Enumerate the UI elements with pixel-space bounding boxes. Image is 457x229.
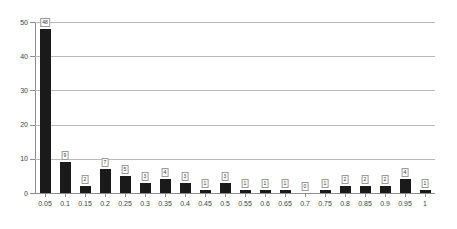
y-tick-label: 20 bbox=[2, 121, 28, 128]
x-tick-mark bbox=[345, 193, 346, 197]
bar-value-label: 9 bbox=[62, 151, 69, 160]
bar-slot: 1 bbox=[275, 22, 295, 193]
bar-value-label: 1 bbox=[262, 179, 269, 188]
bar[interactable]: 2 bbox=[340, 186, 351, 193]
x-tick-slot: 0.45 bbox=[195, 193, 215, 223]
x-tick-label: 0.85 bbox=[358, 200, 372, 208]
bar-value-label: 48 bbox=[40, 18, 50, 27]
x-tick-label: 0.2 bbox=[100, 200, 110, 208]
x-tick-mark bbox=[285, 193, 286, 197]
bar-value-label: 7 bbox=[102, 158, 109, 167]
plot-area: 489275343131110122241 bbox=[35, 22, 435, 193]
x-tick-label: 0.9 bbox=[380, 200, 390, 208]
bar[interactable]: 2 bbox=[380, 186, 391, 193]
bar-slot: 3 bbox=[175, 22, 195, 193]
bar-slot: 2 bbox=[375, 22, 395, 193]
x-tick-mark bbox=[185, 193, 186, 197]
x-tick-slot: 0.6 bbox=[255, 193, 275, 223]
bar-value-label: 2 bbox=[82, 175, 89, 184]
x-tick-slot: 0.4 bbox=[175, 193, 195, 223]
x-tick-mark bbox=[405, 193, 406, 197]
bar-slot: 1 bbox=[195, 22, 215, 193]
x-tick-label: 0.1 bbox=[60, 200, 70, 208]
x-tick-mark bbox=[125, 193, 126, 197]
bar-slot: 5 bbox=[115, 22, 135, 193]
bar-slot: 1 bbox=[315, 22, 335, 193]
bar-slot: 2 bbox=[75, 22, 95, 193]
bar[interactable]: 4 bbox=[160, 179, 171, 193]
x-tick-mark bbox=[105, 193, 106, 197]
bar-slot: 1 bbox=[415, 22, 435, 193]
bar-slot: 2 bbox=[335, 22, 355, 193]
x-tick-slot: 0.65 bbox=[275, 193, 295, 223]
x-tick-label: 1 bbox=[423, 200, 427, 208]
x-tick-label: 0.7 bbox=[300, 200, 310, 208]
bar-slot: 48 bbox=[35, 22, 55, 193]
bar[interactable]: 7 bbox=[100, 169, 111, 193]
x-tick-label: 0.6 bbox=[260, 200, 270, 208]
bar[interactable]: 3 bbox=[140, 183, 151, 193]
x-tick-label: 0.15 bbox=[78, 200, 92, 208]
x-tick-slot: 0.3 bbox=[135, 193, 155, 223]
bar-value-label: 3 bbox=[142, 172, 149, 181]
bar[interactable]: 2 bbox=[80, 186, 91, 193]
x-tick-label: 0.8 bbox=[340, 200, 350, 208]
x-tick-slot: 1 bbox=[415, 193, 435, 223]
bar-value-label: 1 bbox=[242, 179, 249, 188]
x-tick-mark bbox=[145, 193, 146, 197]
x-tick-mark bbox=[425, 193, 426, 197]
bar-value-label: 2 bbox=[382, 175, 389, 184]
x-tick-slot: 0.15 bbox=[75, 193, 95, 223]
x-tick-slot: 0.05 bbox=[35, 193, 55, 223]
x-tick-slot: 0.8 bbox=[335, 193, 355, 223]
x-tick-label: 0.65 bbox=[278, 200, 292, 208]
x-tick-slot: 0.1 bbox=[55, 193, 75, 223]
x-tick-slot: 0.35 bbox=[155, 193, 175, 223]
x-tick-label: 0.45 bbox=[198, 200, 212, 208]
bar-value-label: 1 bbox=[282, 179, 289, 188]
x-tick-slot: 0.25 bbox=[115, 193, 135, 223]
x-tick-mark bbox=[85, 193, 86, 197]
y-tick-label: 40 bbox=[2, 53, 28, 60]
x-tick-label: 0.3 bbox=[140, 200, 150, 208]
x-tick-mark bbox=[165, 193, 166, 197]
y-tick-label: 30 bbox=[2, 87, 28, 94]
x-tick-label: 0.5 bbox=[220, 200, 230, 208]
bar-value-label: 4 bbox=[162, 168, 169, 177]
x-tick-label: 0.25 bbox=[118, 200, 132, 208]
x-tick-label: 0.75 bbox=[318, 200, 332, 208]
bar-value-label: 3 bbox=[182, 172, 189, 181]
bar[interactable]: 5 bbox=[120, 176, 131, 193]
bar-slot: 4 bbox=[155, 22, 175, 193]
x-tick-slot: 0.7 bbox=[295, 193, 315, 223]
bar-slot: 9 bbox=[55, 22, 75, 193]
x-tick-label: 0.95 bbox=[398, 200, 412, 208]
x-tick-slot: 0.55 bbox=[235, 193, 255, 223]
x-tick-slot: 0.85 bbox=[355, 193, 375, 223]
bar-value-label: 1 bbox=[202, 179, 209, 188]
x-tick-mark bbox=[45, 193, 46, 197]
x-tick-slot: 0.9 bbox=[375, 193, 395, 223]
bar-value-label: 3 bbox=[222, 172, 229, 181]
bar-value-label: 1 bbox=[322, 179, 329, 188]
bar-slot: 0 bbox=[295, 22, 315, 193]
bar-value-label: 1 bbox=[422, 179, 429, 188]
bar-slot: 1 bbox=[235, 22, 255, 193]
bar-value-label: 5 bbox=[122, 165, 129, 174]
bar-slot: 7 bbox=[95, 22, 115, 193]
x-tick-slot: 0.5 bbox=[215, 193, 235, 223]
x-tick-label: 0.55 bbox=[238, 200, 252, 208]
bar[interactable]: 48 bbox=[40, 29, 51, 193]
x-tick-slot: 0.2 bbox=[95, 193, 115, 223]
bar[interactable]: 3 bbox=[220, 183, 231, 193]
bar[interactable]: 4 bbox=[400, 179, 411, 193]
bar[interactable]: 9 bbox=[60, 162, 71, 193]
x-tick-mark bbox=[205, 193, 206, 197]
bar[interactable]: 2 bbox=[360, 186, 371, 193]
x-tick-mark bbox=[325, 193, 326, 197]
x-tick-mark bbox=[305, 193, 306, 197]
y-tick-label: 50 bbox=[2, 19, 28, 26]
bar[interactable]: 3 bbox=[180, 183, 191, 193]
x-tick-label: 0.35 bbox=[158, 200, 172, 208]
bar-value-label: 2 bbox=[342, 175, 349, 184]
